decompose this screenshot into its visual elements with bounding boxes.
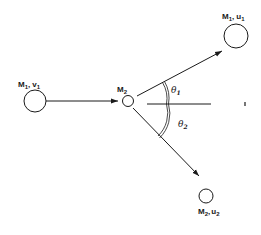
theta1-arc: [163, 82, 170, 105]
m1u1-label: M1,u1: [222, 12, 245, 22]
m2-circle: [123, 96, 134, 107]
m1-circle: [24, 90, 46, 112]
theta2-arc: [158, 104, 170, 138]
m1u1-circle: [224, 24, 248, 48]
m2-label: M2: [117, 85, 128, 95]
recoil-body-m2: M2,u2: [198, 189, 220, 217]
scattered-body-m1: M1,u1: [222, 12, 248, 48]
collision-diagram: M1,v1 M2 M1,u1 M2,u2: [0, 0, 261, 235]
recoil-arrow-m2: [133, 108, 199, 176]
theta2-label: θ2: [178, 119, 188, 130]
incoming-body-m1: M1,v1: [18, 80, 46, 112]
target-body-m2: M2: [117, 85, 134, 107]
theta1-label: θ1: [171, 85, 181, 96]
m1v1-label: M1,v1: [18, 80, 41, 90]
m2u2-label: M2,u2: [198, 207, 220, 217]
m2u2-circle: [199, 189, 213, 203]
